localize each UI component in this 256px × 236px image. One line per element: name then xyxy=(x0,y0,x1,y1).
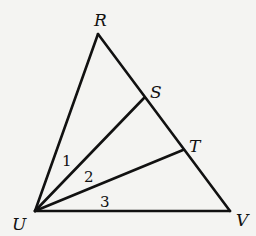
angle-label-1: 1 xyxy=(62,152,72,170)
vertex-label-T: T xyxy=(189,136,202,156)
angle-label-3: 3 xyxy=(100,193,110,211)
segment-US xyxy=(35,98,144,211)
diagram-svg: R S T U V 1 2 3 xyxy=(0,0,256,236)
vertex-label-S: S xyxy=(150,82,162,102)
vertex-label-V: V xyxy=(236,210,250,230)
angle-label-2: 2 xyxy=(84,168,94,186)
segment-RV xyxy=(98,34,230,211)
vertex-label-R: R xyxy=(93,10,107,30)
triangle-diagram: R S T U V 1 2 3 xyxy=(0,0,256,236)
vertex-label-U: U xyxy=(12,214,27,234)
